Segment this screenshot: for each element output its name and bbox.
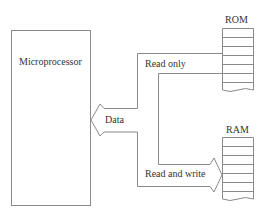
read-only-label: Read only <box>145 58 186 69</box>
ram-label: RAM <box>226 124 249 135</box>
read-and-write-label: Read and write <box>145 168 206 179</box>
microprocessor-label: Microprocessor <box>19 56 82 67</box>
rom-chip <box>223 29 254 92</box>
rom-label: ROM <box>225 14 248 25</box>
diagram-canvas <box>0 0 267 216</box>
ram-chip <box>223 138 254 201</box>
data-bus-label: Data <box>105 114 124 125</box>
